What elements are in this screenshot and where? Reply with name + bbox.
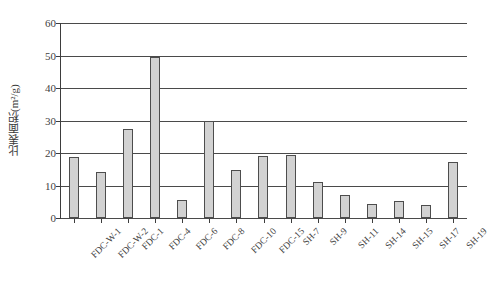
y-tick-mark-50	[56, 56, 61, 57]
bar-FDC-4[interactable]	[150, 57, 160, 218]
bar-FDC-W-1[interactable]	[69, 157, 79, 218]
bar-SH-19[interactable]	[448, 162, 458, 218]
x-tick-mark-SH-14	[372, 219, 373, 223]
bar-FDC-15[interactable]	[258, 156, 268, 218]
x-tick-mark-SH-17	[426, 219, 427, 223]
bar-SH-11[interactable]	[340, 195, 350, 218]
y-tick-label-60: 60	[34, 17, 56, 29]
x-tick-mark-SH-9	[318, 219, 319, 223]
y-axis-tick-labels: 0102030405060	[32, 0, 56, 284]
x-tick-label-SH-15: SH-15	[410, 226, 435, 251]
x-tick-label-SH-17: SH-17	[438, 226, 463, 251]
y-tick-mark-40	[56, 88, 61, 89]
bar-slot	[114, 23, 141, 218]
x-tick-mark-SH-15	[399, 219, 400, 223]
x-tick-mark-FDC-W-1	[74, 219, 75, 223]
bar-slot	[87, 23, 114, 218]
x-tick-label-FDC-8: FDC-8	[221, 226, 247, 252]
y-tick-mark-60	[56, 23, 61, 24]
y-tick-label-20: 20	[34, 147, 56, 159]
bar-FDC-10[interactable]	[231, 170, 241, 218]
bar-slot	[196, 23, 223, 218]
bar-slot	[331, 23, 358, 218]
bar-FDC-8[interactable]	[204, 121, 214, 218]
x-tick-label-FDC-4: FDC-4	[167, 226, 193, 252]
x-tick-label-SH-14: SH-14	[383, 226, 408, 251]
x-tick-label-SH-19: SH-19	[465, 226, 489, 251]
x-tick-label-FDC-6: FDC-6	[194, 226, 220, 252]
y-tick-mark-30	[56, 121, 61, 122]
bar-slot	[223, 23, 250, 218]
bar-FDC-1[interactable]	[123, 129, 133, 218]
bar-slot	[60, 23, 87, 218]
x-tick-label-SH-9: SH-9	[328, 226, 349, 247]
bar-slot	[358, 23, 385, 218]
bar-slot	[277, 23, 304, 218]
bar-slot	[141, 23, 168, 218]
y-tick-label-30: 30	[34, 115, 56, 127]
bar-FDC-W-2[interactable]	[96, 172, 106, 218]
y-tick-mark-20	[56, 153, 61, 154]
bar-SH-14[interactable]	[367, 204, 377, 218]
bar-SH-7[interactable]	[286, 155, 296, 218]
y-tick-label-0: 0	[34, 212, 56, 224]
x-tick-mark-SH-7	[291, 219, 292, 223]
bar-slot	[169, 23, 196, 218]
bar-slot	[440, 23, 467, 218]
bar-slot	[250, 23, 277, 218]
bar-slot	[386, 23, 413, 218]
bar-series	[60, 23, 467, 218]
x-tick-label-SH-11: SH-11	[356, 226, 380, 250]
x-tick-mark-FDC-W-2	[101, 219, 102, 223]
bar-FDC-6[interactable]	[177, 200, 187, 218]
y-axis-title: 比表面积(m²/g)	[6, 50, 22, 190]
x-tick-mark-SH-11	[345, 219, 346, 223]
x-tick-mark-FDC-1	[128, 219, 129, 223]
y-tick-label-10: 10	[34, 180, 56, 192]
y-tick-label-40: 40	[34, 82, 56, 94]
y-tick-mark-10	[56, 186, 61, 187]
x-tick-mark-FDC-10	[236, 219, 237, 223]
bar-SH-15[interactable]	[394, 201, 404, 218]
x-tick-mark-FDC-8	[209, 219, 210, 223]
x-tick-mark-FDC-6	[182, 219, 183, 223]
x-tick-mark-SH-19	[453, 219, 454, 223]
x-tick-label-FDC-10: FDC-10	[249, 226, 278, 255]
plot-area	[60, 23, 467, 218]
x-tick-mark-FDC-15	[264, 219, 265, 223]
bar-slot	[413, 23, 440, 218]
x-tick-mark-FDC-4	[155, 219, 156, 223]
x-tick-label-SH-7: SH-7	[301, 226, 322, 247]
bar-slot	[304, 23, 331, 218]
bar-SH-9[interactable]	[313, 182, 323, 218]
bar-SH-17[interactable]	[421, 205, 431, 218]
y-tick-mark-0	[56, 218, 61, 219]
y-tick-label-50: 50	[34, 50, 56, 62]
